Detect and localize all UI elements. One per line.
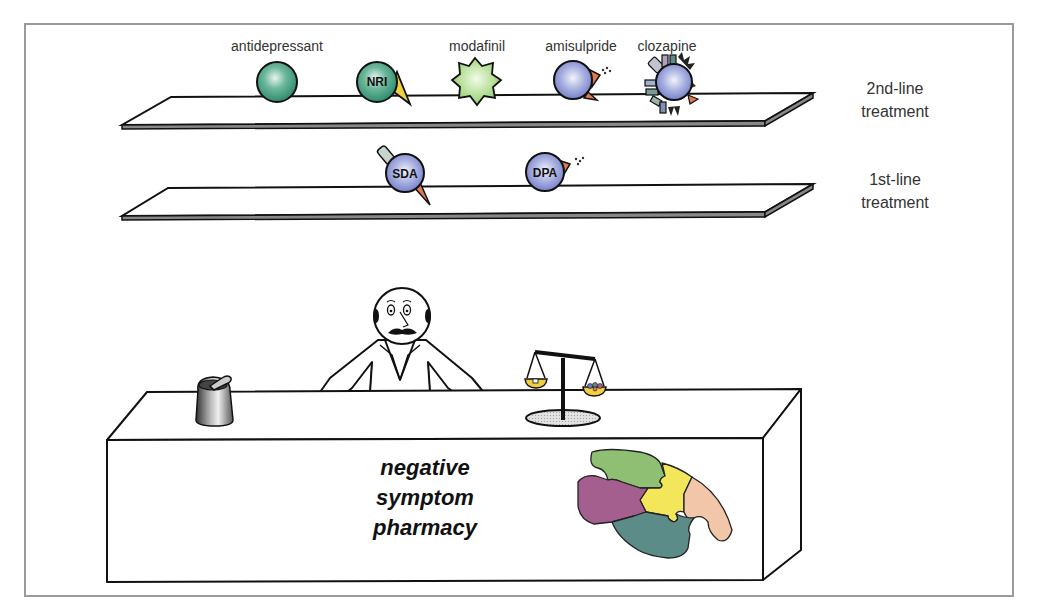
second-line-label-line2: treatment [861, 100, 929, 123]
counter-title-line1: negative [373, 453, 477, 483]
counter-title-line3: pharmacy [373, 513, 477, 543]
clozapine-label: clozapine [637, 38, 696, 54]
first-line-label: 1st-line treatment [861, 168, 929, 214]
mortar-and-pestle-icon [196, 376, 233, 426]
amisulpride-label: amisulpride [545, 38, 617, 54]
svg-text:DPA: DPA [533, 166, 558, 180]
second-line-label-line1: 2nd-line [861, 77, 929, 100]
first-line-shelf [122, 184, 813, 220]
counter-title: negative symptom pharmacy [373, 453, 477, 543]
antidepressant-label: antidepressant [231, 38, 323, 54]
nri-sphere-icon: NRI [357, 62, 410, 104]
modafinil-label: modafinil [449, 38, 505, 54]
balance-scale-icon [525, 352, 606, 426]
first-line-label-line1: 1st-line [861, 168, 929, 191]
svg-text:NRI: NRI [367, 75, 388, 89]
antidepressant-sphere-icon [257, 62, 297, 102]
pharmacist-figure [316, 288, 489, 406]
modafinil-star-icon [452, 58, 501, 105]
svg-text:SDA: SDA [392, 167, 418, 181]
second-line-label: 2nd-line treatment [861, 77, 929, 123]
counter-title-line2: symptom [373, 483, 477, 513]
first-line-label-line2: treatment [861, 191, 929, 214]
second-line-shelf [122, 93, 813, 129]
